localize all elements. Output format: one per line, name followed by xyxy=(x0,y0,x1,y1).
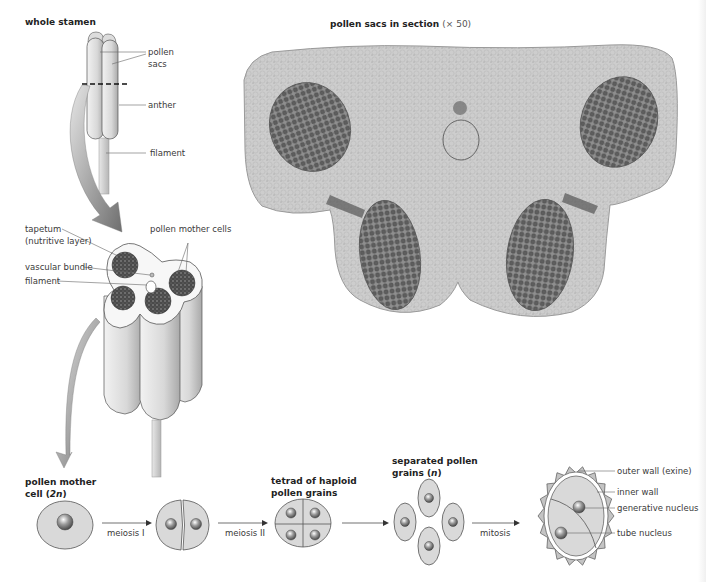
mature-pollen-grain xyxy=(538,467,614,565)
arrowhead-meiosis-2 xyxy=(262,520,268,526)
diagram-canvas xyxy=(0,0,706,582)
pollen-mother-cells-left xyxy=(111,286,135,310)
pollen-sac-right xyxy=(102,40,118,139)
stamen-filament xyxy=(99,138,109,194)
tetrad-nucleus-1 xyxy=(286,508,296,518)
pollen-cytoplasm xyxy=(548,476,604,556)
vascular-bundle xyxy=(150,273,154,277)
label-mitosis: mitosis xyxy=(480,527,510,539)
section-photo-title: pollen sacs in section (× 50) xyxy=(330,18,471,30)
dyad-nucleus-left xyxy=(166,519,177,530)
pollen-grain-bottom-nucleus xyxy=(425,542,434,551)
label-pollen-mother-cells: pollen mother cells xyxy=(150,223,231,235)
label-vascular-bundle: vascular bundle xyxy=(25,261,93,273)
stage-title-separated-suffix: ) xyxy=(437,468,441,478)
tube-nucleus xyxy=(555,527,567,539)
label-tapetum-line2: (nutritive layer) xyxy=(25,235,92,247)
label-pollen-sacs-line1: pollen xyxy=(148,46,174,58)
label-pollen-sacs-line2: sacs xyxy=(148,58,167,70)
whole-stamen-drawing xyxy=(82,32,146,194)
connective-vascular-bundle xyxy=(453,101,467,115)
stage-title-mother-cell-line2: cell (2n) xyxy=(25,488,67,500)
label-inner-wall: inner wall xyxy=(617,486,658,498)
curved-arrow-to-mother-cell xyxy=(56,318,100,468)
cross-section-filament-cut xyxy=(146,281,156,293)
page-edge-shadow xyxy=(698,0,706,582)
label-filament-cross-section: filament xyxy=(25,275,60,287)
stage-title-mother-cell-suffix: ) xyxy=(63,489,67,499)
label-anther: anther xyxy=(148,99,176,111)
stage-title-separated-line1: separated pollen xyxy=(392,455,478,467)
section-photo-title-text: pollen sacs in section xyxy=(330,19,439,29)
tetrad-nucleus-4 xyxy=(310,530,320,540)
stage-title-separated-prefix: grains ( xyxy=(392,468,431,478)
ploidy-2n: 2n xyxy=(50,489,63,499)
label-meiosis-2: meiosis II xyxy=(225,527,265,539)
pollen-grain-left-nucleus xyxy=(401,518,410,527)
pollen-mother-cells-top-left xyxy=(112,252,138,278)
stage-title-tetrad-line1: tetrad of haploid xyxy=(271,475,357,487)
pollen-sac-left xyxy=(87,38,104,139)
tetrad-nucleus-2 xyxy=(310,508,320,518)
arrowhead-mitosis xyxy=(514,520,520,526)
label-outer-wall: outer wall (exine) xyxy=(617,465,692,477)
stage-title-mother-cell-line1: pollen mother xyxy=(25,476,96,488)
label-meiosis-1: meiosis I xyxy=(107,527,145,539)
whole-stamen-title: whole stamen xyxy=(25,16,96,28)
pollen-sacs-section-photo xyxy=(244,45,677,317)
stage-title-separated-line2: grains (n) xyxy=(392,467,442,479)
label-generative-nucleus: generative nucleus xyxy=(617,502,698,514)
arrowhead-separation xyxy=(383,520,389,526)
stage-title-tetrad-line2: pollen grains xyxy=(271,487,337,499)
generative-nucleus xyxy=(573,501,585,513)
label-filament: filament xyxy=(150,147,185,159)
section-photo-magnification: (× 50) xyxy=(442,19,471,29)
mother-cell-nucleus xyxy=(57,514,73,530)
pollen-grain-top-nucleus xyxy=(425,494,434,503)
cross-section-filament xyxy=(152,420,161,477)
pollen-mother-cells-right xyxy=(169,270,195,296)
label-tube-nucleus: tube nucleus xyxy=(617,527,672,539)
arrowhead-meiosis-1 xyxy=(146,520,152,526)
stage-title-mother-cell-prefix: cell ( xyxy=(25,489,50,499)
tetrad-nucleus-3 xyxy=(286,530,296,540)
pollen-grain-right-nucleus xyxy=(449,518,458,527)
label-tapetum-line1: tapetum xyxy=(25,223,61,235)
dyad-nucleus-right xyxy=(191,519,202,530)
